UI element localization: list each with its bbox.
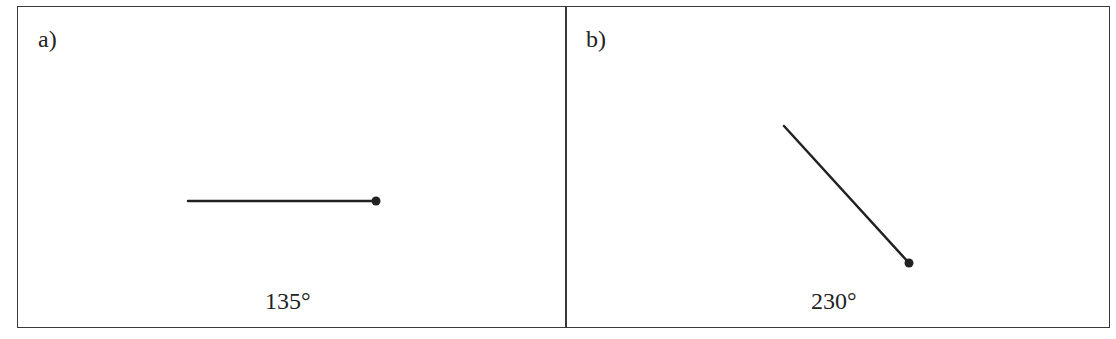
panel-a-vertex-dot (372, 197, 381, 206)
panel-b-vertex-dot (905, 259, 914, 268)
ray-drawing (0, 0, 1116, 339)
panel-b-ray-line (784, 126, 909, 263)
